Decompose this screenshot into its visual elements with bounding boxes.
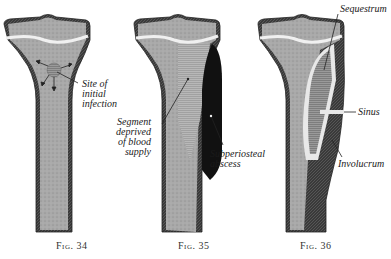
bone-illustrations [0,0,391,259]
label-site-of-initial-infection: Site of initial infection [82,79,117,109]
label-sequestrum: Sequestrum [340,4,387,14]
label-subperiosteal-abscess: Subperiosteal abscess [210,149,265,169]
fig36-bone [258,14,356,232]
fig34-bone [4,15,90,233]
label-involucrum: Involucrum [338,159,384,169]
caption-fig34: Fig. 34 [56,240,87,251]
caption-fig35: Fig. 35 [178,240,209,251]
label-segment-deprived: Segment deprived of blood supply [116,117,151,157]
caption-fig36: Fig. 36 [300,240,331,251]
diagram-osteomyelitis: Site of initial infection Segment depriv… [0,0,391,259]
label-sinus: Sinus [358,107,380,117]
